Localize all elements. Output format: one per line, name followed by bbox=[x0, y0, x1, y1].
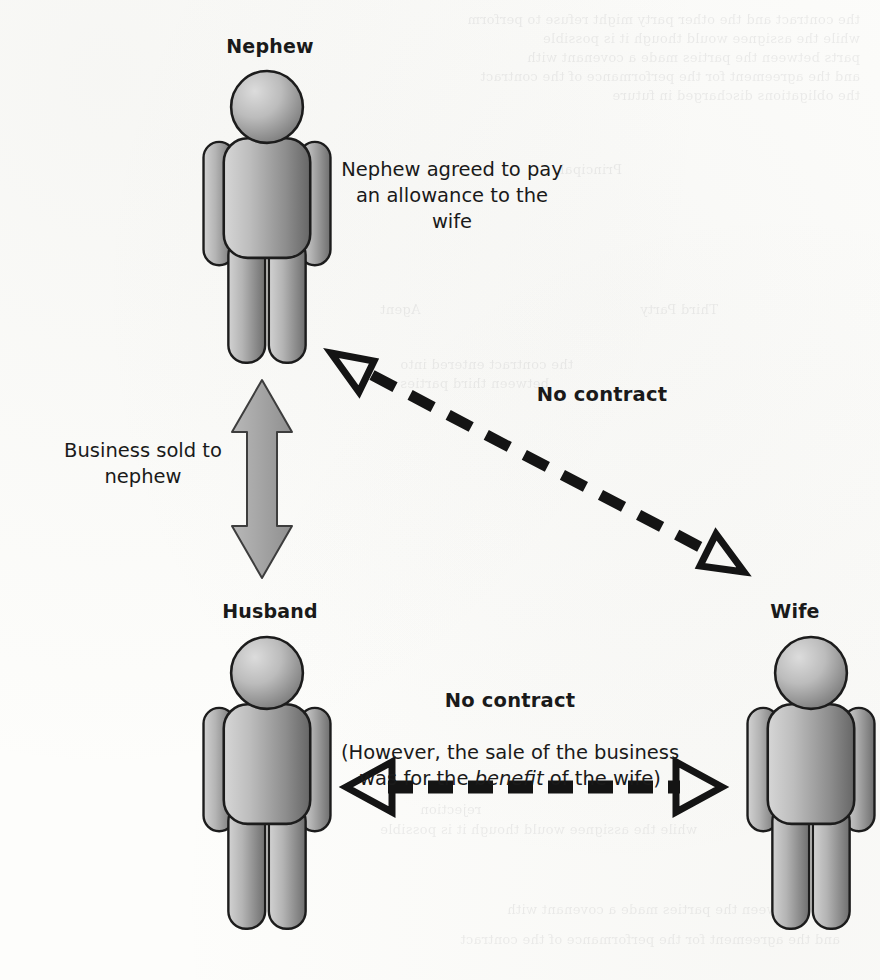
bleed-line: parts between the parties made a covenan… bbox=[20, 48, 860, 67]
bleed-line: while the assignee would though it is po… bbox=[380, 820, 697, 839]
label-husband: Husband bbox=[160, 600, 380, 622]
bleed-line: the obligations discharged in future bbox=[20, 86, 860, 105]
label-no-contract-nephew-wife: No contract bbox=[492, 382, 712, 408]
diagram-graphics bbox=[0, 0, 880, 980]
label-wife: Wife bbox=[730, 600, 860, 622]
label-business-sold: Business sold to nephew bbox=[30, 438, 256, 490]
bleed-line: and the agreement for the performance of… bbox=[60, 930, 840, 949]
bleed-line: Agent bbox=[380, 300, 421, 319]
figure-wife bbox=[748, 637, 875, 929]
bleed-line: Third Party bbox=[640, 300, 718, 319]
bleed-line: rejection bbox=[420, 800, 481, 819]
diagram-canvas: the contract and the other party might r… bbox=[0, 0, 880, 980]
paper-grain bbox=[0, 0, 880, 980]
note-nephew-allowance: Nephew agreed to pay an allowance to the… bbox=[318, 157, 586, 235]
figure-nephew bbox=[204, 71, 331, 363]
label-no-contract-husband-wife-block: No contract (However, the sale of the bu… bbox=[300, 662, 720, 792]
bleed-line: the contract entered into bbox=[400, 355, 573, 374]
note-benefit-suffix: of the wife) bbox=[544, 767, 661, 790]
page-bleed-through: the contract and the other party might r… bbox=[0, 0, 880, 980]
bleed-line: while the assignee would though it is po… bbox=[20, 29, 860, 48]
label-nephew: Nephew bbox=[160, 35, 380, 57]
note-benefit-emphasis: benefit bbox=[475, 767, 544, 790]
label-no-contract-husband-wife: No contract bbox=[445, 689, 576, 712]
bleed-line: parts between the parties made a covenan… bbox=[60, 900, 840, 919]
bleed-line: and the agreement for the performance of… bbox=[20, 67, 860, 86]
bleed-line: the contract and the other party might r… bbox=[20, 10, 860, 29]
